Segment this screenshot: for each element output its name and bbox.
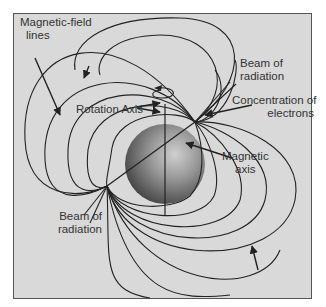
pulsar-diagram <box>0 0 326 307</box>
label-line: lines <box>20 29 92 42</box>
label-line: axis <box>222 163 269 176</box>
label-line: Magnetic <box>222 150 269 163</box>
label-line: Magnetic-field <box>20 16 92 29</box>
label-electrons: Concentration of electrons <box>232 94 314 120</box>
label-field-lines: Magnetic-field lines <box>20 16 92 42</box>
label-beam-bottom: Beam of radiation <box>32 210 102 236</box>
label-line: Beam of <box>240 57 284 70</box>
label-line: Beam of <box>32 210 102 223</box>
label-rotation-axis: Rotation Axis <box>76 103 143 116</box>
label-line: radiation <box>32 223 102 236</box>
label-line: radiation <box>240 70 284 83</box>
label-beam-top: Beam of radiation <box>240 57 284 83</box>
label-line: electrons <box>232 107 314 120</box>
label-magnetic-axis: Magnetic axis <box>222 150 269 176</box>
rotation-arrow-icon <box>153 88 174 98</box>
label-line: Concentration of <box>232 94 314 107</box>
